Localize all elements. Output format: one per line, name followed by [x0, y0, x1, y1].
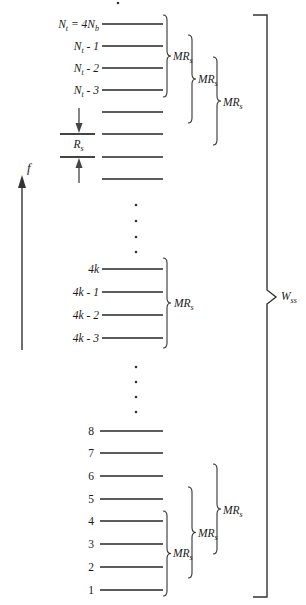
tone-row	[0, 103, 306, 121]
tone-label: Nt - 2	[18, 59, 99, 77]
tone-row	[0, 170, 306, 188]
tone-label	[18, 125, 99, 143]
tone-line	[100, 589, 163, 591]
tone-line	[102, 268, 163, 270]
tone-label: 6	[18, 467, 94, 485]
tone-row: Nt - 2	[0, 59, 306, 77]
tone-line	[102, 45, 163, 47]
tone-label: 4k - 1	[18, 283, 99, 301]
tone-row: Nt = 4Nb	[0, 15, 306, 33]
tone-label: 5	[18, 490, 94, 508]
tone-label: 7	[18, 444, 94, 462]
tone-line	[102, 133, 163, 135]
tone-line	[102, 89, 163, 91]
tone-row	[0, 125, 306, 143]
tone-line	[100, 543, 163, 545]
tone-row: 2	[0, 558, 306, 576]
tone-row: 5	[0, 490, 306, 508]
tone-line	[100, 430, 163, 432]
tone-label: 1	[18, 581, 94, 599]
tone-label: 4k	[18, 260, 99, 278]
tone-row: 6	[0, 467, 306, 485]
tone-line	[102, 178, 163, 180]
tone-line	[102, 156, 163, 158]
tone-row	[0, 148, 306, 166]
tone-line	[102, 67, 163, 69]
tone-label: Nt - 3	[18, 81, 99, 99]
tone-label	[18, 170, 99, 188]
tone-label: 4k - 2	[18, 306, 99, 324]
tone-row: 4k - 3	[0, 329, 306, 347]
tone-row: 1	[0, 581, 306, 599]
tone-label	[18, 103, 99, 121]
tone-line	[100, 566, 163, 568]
tone-line	[100, 520, 163, 522]
tone-line	[100, 498, 163, 500]
tone-row: 7	[0, 444, 306, 462]
tone-line	[102, 111, 163, 113]
tone-row: 8	[0, 422, 306, 440]
tone-label: Nt = 4Nb	[18, 15, 99, 33]
tone-line	[102, 291, 163, 293]
tone-row: 4k	[0, 260, 306, 278]
tone-row: 4k - 2	[0, 306, 306, 324]
tone-label: 4	[18, 512, 94, 530]
tone-line	[100, 452, 163, 454]
tone-line	[102, 23, 163, 25]
tone-row: Nt - 1	[0, 37, 306, 55]
tone-label	[18, 148, 99, 166]
tone-row: 3	[0, 535, 306, 553]
tone-row: 4k - 1	[0, 283, 306, 301]
tone-line	[102, 337, 163, 339]
tone-label: Nt - 1	[18, 37, 99, 55]
tone-label: 3	[18, 535, 94, 553]
tone-label: 8	[18, 422, 94, 440]
tone-line	[100, 475, 163, 477]
tone-line	[102, 314, 163, 316]
tone-row: Nt - 3	[0, 81, 306, 99]
tone-label: 4k - 3	[18, 329, 99, 347]
tone-label: 2	[18, 558, 94, 576]
tone-row: 4	[0, 512, 306, 530]
frequency-allocation-diagram: f Rs Wss MRs MRs MRs MRs MRs MRs MRs Nt …	[0, 0, 306, 605]
